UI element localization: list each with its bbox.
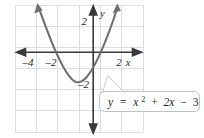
parabola-path (39, 8, 116, 82)
equation-callout[interactable]: y = x 2 + 2x − 3 (100, 92, 200, 112)
equation-term3: 3 (193, 96, 199, 108)
coordinate-plane-svg: –4 –2 2 2 –2 x y y = x 2 + 2x − (0, 0, 204, 138)
grid-lines (15, 5, 143, 132)
x-tick-label--2: –2 (45, 56, 58, 68)
x-axis-name: x (125, 57, 131, 68)
y-tick-label-2: 2 (82, 15, 88, 27)
x-tick-label-2: 2 (116, 56, 122, 68)
equation-plus: + (151, 96, 158, 108)
y-axis-arrow-up (90, 6, 97, 15)
y-axis-name: y (99, 8, 105, 19)
equation-equals: = (120, 96, 127, 108)
parabola-curve (34, 3, 121, 82)
graph-figure: –4 –2 2 2 –2 x y y = x 2 + 2x − (0, 0, 204, 138)
x-axis-arrow-right (133, 49, 142, 56)
x-tick-label--4: –4 (22, 56, 35, 68)
equation-term1-base: x (132, 96, 139, 108)
equation-lhs: y (107, 96, 114, 109)
y-tick-label--2: –2 (77, 78, 90, 90)
equation-minus: − (180, 96, 187, 108)
x-axis-arrow-left (17, 49, 26, 56)
equation-term1-exp: 2 (141, 95, 145, 104)
equation-term2: 2x (164, 96, 176, 108)
